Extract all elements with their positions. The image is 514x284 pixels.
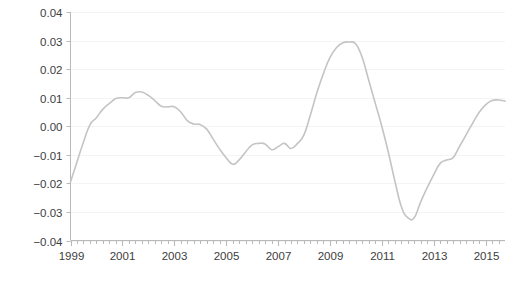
x-tick-labels: 199920012003200520072009201120132015: [59, 250, 500, 262]
x-tick-label: 1999: [59, 250, 85, 262]
x-tick-label: 2015: [474, 250, 500, 262]
x-tick-label: 2011: [370, 250, 395, 262]
y-tick-label: −0.01: [33, 150, 62, 162]
y-tick-label: 0.04: [40, 7, 63, 19]
x-tick-label: 2001: [110, 250, 136, 262]
y-tick-label: −0.04: [33, 236, 63, 248]
line-chart-plot: 0.040.030.020.010.00−0.01−0.02−0.03−0.04…: [0, 0, 514, 284]
x-tick-label: 2013: [422, 250, 448, 262]
y-tick-label: 0.03: [40, 36, 62, 48]
chart-figure: Proportionate deviation from trend 0.040…: [0, 0, 514, 284]
y-tick-label: 0.00: [40, 121, 62, 133]
y-tick-label: −0.03: [33, 207, 62, 219]
x-tick-label: 2007: [266, 250, 292, 262]
x-tick-label: 2009: [318, 250, 344, 262]
y-tick-label: −0.02: [33, 178, 62, 190]
x-tick-label: 2003: [162, 250, 188, 262]
y-tick-label: 0.01: [40, 93, 62, 105]
y-tick-label: 0.02: [40, 64, 62, 76]
x-tick-label: 2005: [214, 250, 240, 262]
